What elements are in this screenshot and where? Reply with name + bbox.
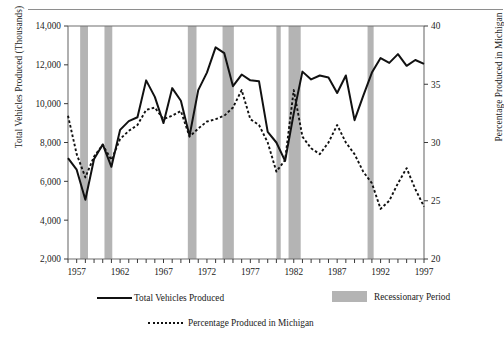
legend-item-percentage: Percentage Produced in Michigan	[148, 317, 314, 328]
x-tick-label: 1967	[154, 267, 173, 277]
x-tick-label: 1972	[198, 267, 217, 277]
y-tick-label-left: 6,000	[40, 177, 61, 187]
y-tick-label-right: 40	[431, 21, 441, 31]
y-tick-label-left: 4,000	[40, 216, 61, 226]
recession-band	[289, 26, 301, 259]
x-tick-label: 1992	[371, 267, 390, 277]
x-tick-label: 1957	[67, 267, 86, 277]
x-tick-label: 1962	[111, 267, 130, 277]
solid-line-icon	[97, 297, 132, 299]
recession-band	[368, 26, 374, 259]
legend-label-percentage: Percentage Produced in Michigan	[188, 318, 314, 328]
legend-item-total-vehicles: Total Vehicles Produced	[97, 292, 224, 303]
y-tick-label-left: 10,000	[35, 99, 61, 109]
y-tick-label-right: 35	[431, 80, 441, 90]
legend-label-recession: Recessionary Period	[374, 292, 450, 302]
x-tick-label: 1982	[284, 267, 303, 277]
y-tick-label-right: 25	[431, 196, 441, 206]
y-tick-label-right: 20	[431, 254, 441, 264]
recession-band	[223, 26, 234, 259]
y-tick-label-left: 8,000	[40, 138, 61, 148]
x-tick-label: 1997	[415, 267, 434, 277]
recession-band	[80, 26, 88, 259]
dotted-line-icon	[148, 322, 183, 324]
plot-area: 2,0004,0006,0008,00010,00012,00014,00020…	[0, 0, 503, 285]
recession-swatch-icon	[332, 291, 367, 302]
y-tick-label-left: 14,000	[35, 21, 61, 31]
x-tick-label: 1987	[328, 267, 347, 277]
chart-svg: 2,0004,0006,0008,00010,00012,00014,00020…	[0, 0, 503, 285]
x-tick-label: 1977	[241, 267, 260, 277]
y-tick-label-left: 2,000	[40, 254, 61, 264]
legend-item-recession: Recessionary Period	[332, 291, 450, 302]
legend-label-total-vehicles: Total Vehicles Produced	[134, 293, 224, 303]
y-tick-label-left: 12,000	[35, 60, 61, 70]
y-tick-label-right: 30	[431, 138, 441, 148]
recession-band	[104, 26, 112, 259]
recession-band	[188, 26, 197, 259]
chart-legend: Total Vehicles Produced Recessionary Per…	[0, 288, 503, 340]
